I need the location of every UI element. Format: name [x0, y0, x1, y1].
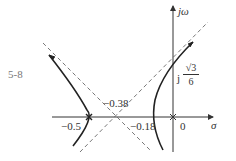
origin-label: 0: [180, 121, 186, 132]
breakaway-left-label: −0.5: [61, 121, 81, 132]
asymptote-1: [43, 43, 150, 150]
breakaway-right-label: −0.18: [130, 121, 155, 132]
centroid-label: −0.38: [103, 98, 128, 109]
asymptote-2: [80, 22, 208, 152]
imag-crossing-numerator: √3: [183, 63, 199, 75]
imag-crossing-prefix: j: [177, 73, 180, 84]
figure-label: 5-8: [8, 68, 23, 80]
y-axis-label: jω: [178, 6, 189, 17]
imag-crossing-denominator: 6: [183, 77, 199, 87]
root-locus-plot: [0, 0, 236, 161]
x-axis-label: σ: [211, 120, 216, 131]
